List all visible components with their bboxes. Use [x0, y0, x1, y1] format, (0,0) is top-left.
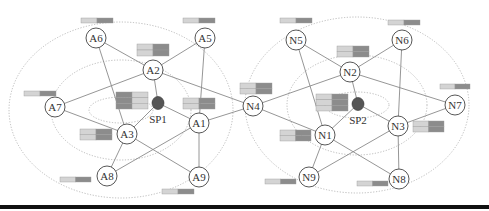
- node-n1: N1: [315, 125, 335, 145]
- super-peer-label: SP2: [349, 114, 367, 126]
- bar-N4: [240, 83, 272, 94]
- peer-nodes: A1A2A3A5A6A7A8A9N1N2N3N4N5N6N7N8N9: [45, 28, 465, 189]
- node-label: A7: [48, 101, 62, 113]
- edge-n1-n8: [325, 135, 399, 179]
- node-a2: A2: [143, 60, 163, 80]
- node-a5: A5: [195, 28, 215, 48]
- bar-SP2: [316, 94, 348, 111]
- node-a8: A8: [97, 166, 117, 186]
- bar-A9: [162, 189, 194, 194]
- bar-N2: [337, 46, 369, 57]
- node-label: A3: [120, 128, 134, 140]
- network-diagram: SP1SP2 A1A2A3A5A6A7A8A9N1N2N3N4N5N6N7N8N…: [0, 0, 489, 211]
- node-a7: A7: [45, 97, 65, 117]
- node-label: A8: [100, 170, 114, 182]
- bar-A1: [183, 98, 215, 109]
- bar-N3: [413, 121, 444, 132]
- node-a1: A1: [189, 113, 209, 133]
- node-label: N4: [246, 100, 260, 112]
- bottom-rule: [0, 205, 489, 209]
- node-label: N7: [448, 99, 462, 111]
- bar-A6: [81, 18, 113, 23]
- bar-N9: [265, 179, 296, 184]
- node-n3: N3: [388, 116, 408, 136]
- node-n9: N9: [299, 167, 319, 187]
- node-label: N5: [289, 34, 303, 46]
- node-a3: A3: [117, 124, 137, 144]
- bar-A8: [60, 177, 91, 182]
- bar-A7: [24, 91, 56, 96]
- node-label: A2: [146, 64, 159, 76]
- node-n6: N6: [392, 30, 412, 50]
- super-peer-sp1: SP1: [149, 97, 167, 126]
- super-peer-sp2: SP2: [349, 98, 367, 127]
- range-ring-1-2: [51, 60, 191, 160]
- node-label: N3: [391, 120, 405, 132]
- node-label: A5: [198, 32, 212, 44]
- bar-A3: [80, 129, 112, 140]
- node-label: N8: [392, 173, 406, 185]
- edge-n2-n7: [350, 72, 455, 105]
- node-label: N9: [302, 171, 316, 183]
- bar-N1: [280, 130, 311, 141]
- node-a6: A6: [86, 28, 106, 48]
- edge-a3-a9: [127, 134, 199, 177]
- bar-N5: [280, 18, 312, 23]
- node-a9: A9: [189, 167, 209, 187]
- bar-N6: [388, 20, 420, 25]
- node-label: A9: [192, 171, 206, 183]
- bar-A5: [183, 18, 215, 23]
- bar-A2: [137, 44, 169, 56]
- edge-n6-n3: [398, 40, 402, 126]
- bar-SP1: [116, 92, 148, 109]
- node-label: A6: [89, 32, 103, 44]
- bar-N7: [440, 84, 470, 89]
- super-peer-label: SP1: [149, 113, 167, 125]
- node-n8: N8: [389, 169, 409, 189]
- node-n5: N5: [286, 30, 306, 50]
- node-n7: N7: [445, 95, 465, 115]
- node-n4: N4: [243, 96, 263, 116]
- node-label: N2: [343, 66, 356, 78]
- node-label: N1: [318, 129, 331, 141]
- node-n2: N2: [340, 62, 360, 82]
- edge-a5-a1: [199, 38, 205, 123]
- node-label: N6: [395, 34, 409, 46]
- bar-N8: [357, 181, 388, 186]
- node-label: A1: [192, 117, 205, 129]
